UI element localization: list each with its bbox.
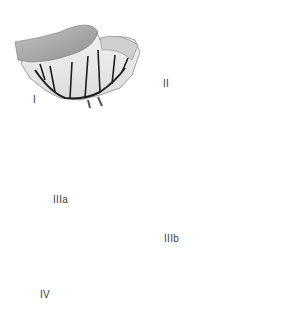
panel-label-iiib: IIIb (164, 233, 179, 244)
panel-label-i: I (33, 94, 36, 105)
panel-label-ii: II (163, 78, 169, 89)
diagram-canvas (0, 0, 281, 310)
panel-label-iv: IV (40, 289, 50, 300)
panel-label-iiia: IIIa (53, 194, 68, 205)
